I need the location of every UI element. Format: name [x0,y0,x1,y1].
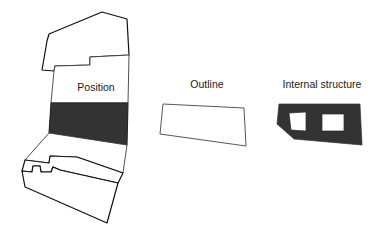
internal-structure-hole-1[interactable] [322,114,344,131]
internal-structure-hole-0[interactable] [289,112,306,131]
panel-internal-structure: Internal structure [277,78,362,145]
panel-position: Position [22,12,129,223]
panel-label-internal-structure: Internal structure [283,78,362,90]
panel-label-outline: Outline [190,78,223,90]
outline-shape[interactable] [160,104,246,146]
panel-label-position: Position [77,81,115,93]
internal-structure-body[interactable] [277,104,362,145]
diagram-canvas: Position Outline Internal structure [0,0,384,235]
panel-outline: Outline [160,78,246,146]
diagram-figure: Position Outline Internal structure [0,0,384,235]
